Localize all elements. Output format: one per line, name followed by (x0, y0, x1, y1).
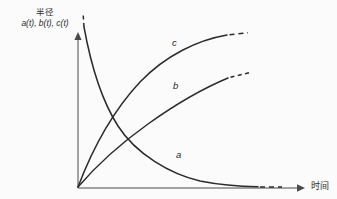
curve-label-c: c (172, 38, 177, 49)
curve-a (83, 12, 282, 187)
x-axis (78, 184, 305, 192)
y-axis (74, 32, 81, 188)
curve-label-b: b (173, 81, 178, 92)
x-axis-label: 时间 (311, 181, 330, 191)
y-axis-label: 半径 a(t), b(t), c(t) (8, 8, 82, 29)
plot-area (0, 0, 337, 199)
y-axis-label-line1: 半径 (8, 8, 82, 18)
curve-label-a: a (176, 150, 181, 161)
curve-c (78, 33, 248, 187)
y-axis-label-line2: a(t), b(t), c(t) (8, 19, 82, 29)
curve-b (78, 73, 250, 188)
figure-canvas: 半径 a(t), b(t), c(t) 时间 c b a (0, 0, 337, 199)
